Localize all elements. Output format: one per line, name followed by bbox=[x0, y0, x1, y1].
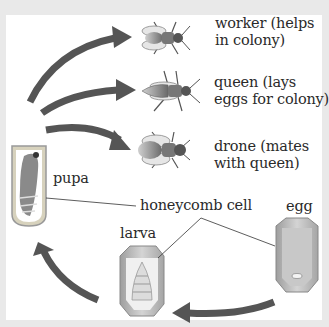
egg-cell-icon bbox=[276, 218, 318, 292]
worker-label-line1: worker (helps bbox=[215, 15, 314, 32]
larva-cell-icon bbox=[120, 246, 164, 316]
arrow-egg-to-larva bbox=[172, 302, 274, 323]
worker-label: worker (helps in colony) bbox=[215, 15, 314, 49]
queen-label-line2: eggs for colony) bbox=[214, 91, 329, 108]
arrow-to-queen bbox=[42, 79, 136, 113]
arrow-larva-to-pupa bbox=[33, 242, 98, 300]
worker-label-line2: in colony) bbox=[215, 32, 314, 49]
drone-label: drone (mates with queen) bbox=[214, 138, 309, 172]
queen-label: queen (lays eggs for colony) bbox=[214, 74, 329, 108]
queen-label-line1: queen (lays bbox=[214, 74, 329, 91]
pupa-cell-icon bbox=[12, 146, 46, 226]
drone-label-line1: drone (mates bbox=[214, 138, 309, 155]
queen-bee-icon bbox=[142, 71, 200, 111]
drone-label-line2: with queen) bbox=[214, 155, 309, 172]
drone-bee-icon bbox=[138, 132, 190, 168]
egg-label: egg bbox=[286, 198, 313, 215]
arrow-to-drone bbox=[46, 128, 131, 150]
larva-label: larva bbox=[120, 225, 156, 242]
honeycomb-cell-label: honeycomb cell bbox=[140, 197, 252, 214]
pupa-label: pupa bbox=[53, 170, 89, 187]
worker-bee-icon bbox=[142, 22, 190, 54]
